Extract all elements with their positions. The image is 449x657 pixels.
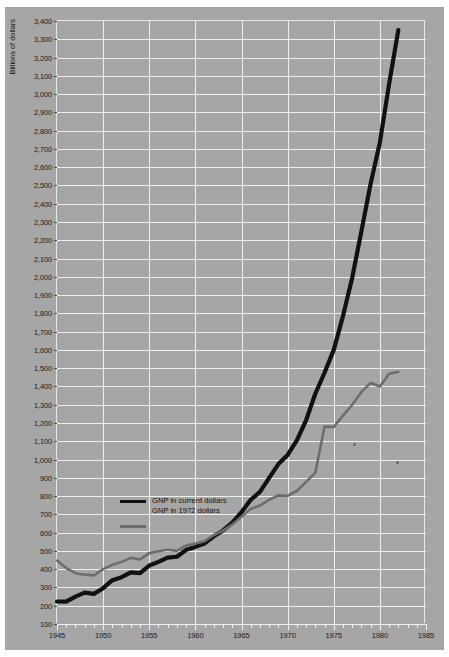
y-axis-tick-label: 300 <box>40 583 52 592</box>
x-axis-tick-label: 1945 <box>49 631 66 640</box>
x-axis-tick-label: 1950 <box>95 631 112 640</box>
y-axis-tick-label: 3,200 <box>34 53 52 62</box>
x-axis-minor-tick <box>417 624 418 628</box>
print-speck <box>396 461 399 464</box>
x-axis-tick <box>242 624 243 630</box>
black-line-swatch <box>120 500 146 503</box>
x-axis-minor-tick <box>371 624 372 628</box>
x-axis-minor-tick <box>223 624 224 628</box>
x-axis-minor-tick <box>269 624 270 628</box>
y-axis-tick-label: 1,800 <box>34 309 52 318</box>
y-axis-tick-label: 1,700 <box>34 327 52 336</box>
y-axis-tick-label: 2,500 <box>34 181 52 190</box>
x-axis-tick-label: 1960 <box>187 631 204 640</box>
x-axis-minor-tick <box>112 624 113 628</box>
x-axis-minor-tick <box>66 624 67 628</box>
y-axis-tick-label: 200 <box>40 601 52 610</box>
x-axis-minor-tick <box>408 624 409 628</box>
y-axis-tick-label: 2,600 <box>34 163 52 172</box>
x-axis-minor-tick <box>343 624 344 628</box>
y-axis-tick-label: 1,300 <box>34 400 52 409</box>
x-axis-minor-tick <box>75 624 76 628</box>
x-axis-minor-tick <box>94 624 95 628</box>
legend-label-current-dollars: GNP in current dollars <box>152 496 227 506</box>
y-axis-tick-label: 2,200 <box>34 236 52 245</box>
y-axis-tick-label: 2,000 <box>34 272 52 281</box>
x-axis-minor-tick <box>177 624 178 628</box>
y-axis-tick-label: 2,900 <box>34 108 52 117</box>
y-axis-title: Billions of dollars <box>8 19 17 74</box>
x-axis-tick <box>380 624 381 630</box>
y-axis-tick-label: 2,700 <box>34 144 52 153</box>
x-axis-minor-tick <box>352 624 353 628</box>
y-axis-tick-label: 2,300 <box>34 218 52 227</box>
y-axis-tick-label: 400 <box>40 565 52 574</box>
print-speck <box>353 443 356 446</box>
x-axis-minor-tick <box>389 624 390 628</box>
y-axis-tick-label: 1,400 <box>34 382 52 391</box>
x-axis-minor-tick <box>186 624 187 628</box>
gray-line-swatch <box>120 525 146 528</box>
y-axis-tick-label: 3,300 <box>34 35 52 44</box>
x-axis-tick-label: 1970 <box>279 631 296 640</box>
y-axis-tick-label: 3,400 <box>34 17 52 26</box>
y-axis-tick-label: 3,100 <box>34 71 52 80</box>
x-axis-minor-tick <box>361 624 362 628</box>
x-axis-minor-tick <box>214 624 215 628</box>
x-axis-tick <box>195 624 196 630</box>
y-axis-tick-label: 3,000 <box>34 90 52 99</box>
x-axis-minor-tick <box>158 624 159 628</box>
x-axis-tick <box>149 624 150 630</box>
x-axis-minor-tick <box>306 624 307 628</box>
x-axis-tick <box>57 624 58 630</box>
x-axis-tick-label: 1975 <box>326 631 343 640</box>
x-axis-tick-label: 1980 <box>372 631 389 640</box>
y-axis-tick-label: 2,100 <box>34 254 52 263</box>
series-line-current-dollars <box>57 30 398 602</box>
x-axis-minor-tick <box>297 624 298 628</box>
y-axis-tick-label: 1,600 <box>34 345 52 354</box>
x-axis-tick <box>334 624 335 630</box>
x-axis-minor-tick <box>278 624 279 628</box>
x-axis-minor-tick <box>398 624 399 628</box>
x-axis-minor-tick <box>260 624 261 628</box>
x-axis-minor-tick <box>168 624 169 628</box>
y-axis-tick-label: 600 <box>40 528 52 537</box>
x-axis-minor-tick <box>131 624 132 628</box>
y-axis-tick-label: 1,200 <box>34 419 52 428</box>
x-axis-minor-tick <box>122 624 123 628</box>
legend-label-1972-dollars: GNP in 1972 dollars <box>152 506 220 516</box>
x-axis-minor-tick <box>85 624 86 628</box>
x-axis-minor-tick <box>325 624 326 628</box>
x-axis-tick-label: 1965 <box>233 631 250 640</box>
x-axis-minor-tick <box>251 624 252 628</box>
y-axis-tick-label: 800 <box>40 492 52 501</box>
data-series-layer <box>57 21 426 624</box>
x-axis-tick <box>103 624 104 630</box>
y-axis-tick-label: 2,400 <box>34 199 52 208</box>
x-axis-minor-tick <box>205 624 206 628</box>
y-axis-tick-label: 1,500 <box>34 364 52 373</box>
y-axis-tick-label: 1,900 <box>34 291 52 300</box>
y-axis-tick-label: 900 <box>40 473 52 482</box>
y-axis-tick-label: 100 <box>40 620 52 629</box>
chart-figure: Billions of dollars 10020030040050060070… <box>5 7 444 650</box>
plot-area: 1002003004005006007008009001,0001,1001,2… <box>56 20 425 623</box>
x-axis-minor-tick <box>315 624 316 628</box>
y-axis-tick-label: 1,100 <box>34 437 52 446</box>
x-axis-tick-label: 1955 <box>141 631 158 640</box>
y-axis-tick-label: 2,800 <box>34 126 52 135</box>
x-axis-minor-tick <box>140 624 141 628</box>
x-axis-minor-tick <box>232 624 233 628</box>
x-axis-tick <box>288 624 289 630</box>
series-line-1972-dollars <box>57 372 398 576</box>
y-axis-tick-label: 1,000 <box>34 455 52 464</box>
x-axis-tick-label: 1985 <box>418 631 435 640</box>
y-axis-tick-label: 700 <box>40 510 52 519</box>
y-axis-tick-label: 500 <box>40 546 52 555</box>
x-axis-tick <box>426 624 427 630</box>
